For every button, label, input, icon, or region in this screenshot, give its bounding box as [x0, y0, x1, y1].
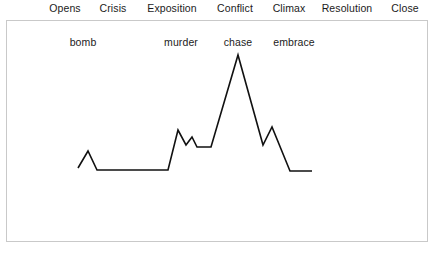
event-annotation-label: murder [164, 36, 198, 49]
event-annotation-label: bomb [70, 36, 97, 49]
stage-axis-label: Close [391, 2, 418, 15]
event-annotation-label: chase [224, 36, 253, 49]
event-annotation-label: embrace [273, 36, 315, 49]
chart-screenshot: OpensCrisisExpositionConflictClimaxResol… [0, 0, 438, 256]
stage-axis-label: Crisis [100, 2, 127, 15]
stage-axis-label: Resolution [322, 2, 373, 15]
stage-axis-label: Conflict [217, 2, 253, 15]
stage-axis-label: Climax [273, 2, 306, 15]
chart-plot-frame [6, 20, 428, 242]
stage-axis-label: Opens [49, 2, 80, 15]
stage-axis-label: Exposition [147, 2, 196, 15]
stage-axis-label-band: OpensCrisisExpositionConflictClimaxResol… [0, 0, 438, 20]
